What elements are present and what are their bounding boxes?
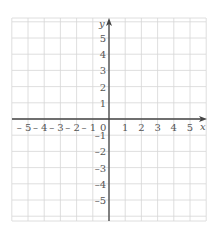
x-tick-label: 1 <box>122 122 128 133</box>
y-axis-label: y <box>98 18 105 29</box>
origin-label: 0 <box>100 122 106 133</box>
x-tick-label: – 4 <box>33 122 48 133</box>
y-tick-label: –2 <box>95 146 106 157</box>
x-axis-label: x <box>200 121 206 132</box>
x-tick-label: – 5 <box>17 122 32 133</box>
axes <box>12 18 207 221</box>
coordinate-grid: – 5– 4– 3– 2– 11234554321–1–2–3–4–5 x y … <box>0 0 216 228</box>
y-tick-label: –3 <box>95 163 106 174</box>
y-tick-label: 2 <box>100 82 106 93</box>
x-tick-label: – 2 <box>65 122 80 133</box>
y-tick-label: 5 <box>100 33 106 44</box>
x-tick-label: 4 <box>171 122 177 133</box>
y-tick-label: 4 <box>100 49 106 60</box>
x-tick-label: 5 <box>187 122 193 133</box>
y-tick-label: –5 <box>95 195 106 206</box>
x-tick-label: 2 <box>138 122 144 133</box>
x-tick-label: – 3 <box>49 122 64 133</box>
y-tick-label: 3 <box>100 65 106 76</box>
y-tick-label: 1 <box>100 98 106 109</box>
y-tick-label: –4 <box>95 179 106 190</box>
x-tick-label: 3 <box>154 122 160 133</box>
